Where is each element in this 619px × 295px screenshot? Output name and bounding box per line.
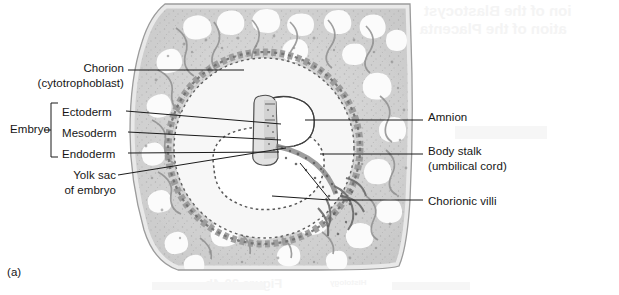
bleedthrough-block-1 (455, 126, 547, 139)
label-yolk-sac-line1: Yolk sac (0, 168, 116, 183)
bleedthrough-heading-2: ation of the Placenta (420, 20, 567, 37)
label-amnion-line1: Amnion (428, 110, 467, 125)
embryonic-disc (253, 95, 278, 165)
embryo-bracket (51, 103, 58, 157)
label-chorionic-villi: Chorionic villi (428, 194, 497, 209)
bleedthrough-heading-1: ion of the Blastocyst (424, 2, 572, 19)
label-ectoderm: Ectoderm (62, 105, 124, 120)
bleedthrough-block-3 (392, 282, 470, 290)
label-chorionic-villi-line1: Chorionic villi (428, 194, 497, 209)
bleedthrough-subcaption: Histology (330, 278, 366, 287)
panel-letter: (a) (7, 265, 21, 280)
specimen-body (118, 0, 418, 275)
label-mesoderm: Mesoderm (62, 126, 126, 141)
label-chorion-line2: (cytotrophoblast) (0, 76, 124, 91)
label-amnion: Amnion (428, 110, 467, 125)
figure-panel-a: ion of the Blastocyst ation of the Place… (0, 0, 619, 295)
label-chorion-line1: Chorion (0, 61, 124, 76)
label-body-stalk-line2: (umbilical cord) (428, 159, 507, 174)
bleedthrough-block-2 (152, 282, 264, 290)
bleedthrough-figure-caption: Figure 30-4b (205, 276, 282, 291)
label-yolk-sac-line2: of embryo (0, 183, 116, 198)
label-chorion: Chorion (cytotrophoblast) (0, 61, 124, 90)
label-endoderm: Endoderm (62, 147, 126, 162)
label-embryo-group: Embryo (2, 122, 50, 137)
label-yolk-sac: Yolk sac of embryo (0, 168, 116, 197)
specimen-micrograph (118, 0, 418, 275)
label-body-stalk: Body stalk (umbilical cord) (428, 144, 507, 173)
label-body-stalk-line1: Body stalk (428, 144, 507, 159)
